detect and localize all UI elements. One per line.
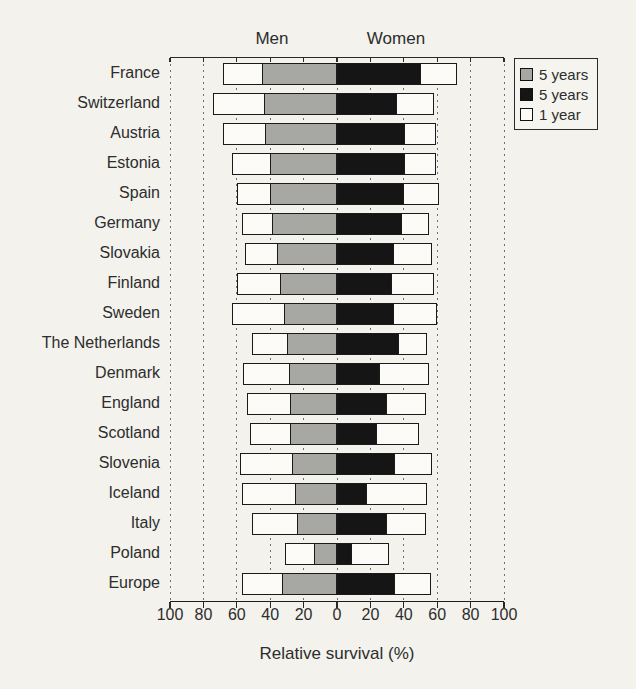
bar-men-5yr [297,513,337,535]
bar-row [170,123,504,145]
axis-tick [169,58,170,62]
country-label: Europe [0,573,160,593]
bar-women-5yr [337,303,394,325]
bar-men-5yr [295,483,337,505]
country-label: Slovenia [0,453,160,473]
bar-row [170,393,504,415]
axis-tick [303,58,304,62]
bar-men-5yr [287,333,337,355]
bar-row [170,333,504,355]
x-tick-label: 40 [395,606,413,624]
bar-women-5yr [337,63,421,85]
x-tick-label: 20 [361,606,379,624]
country-label: Switzerland [0,93,160,113]
country-label: Finland [0,273,160,293]
country-label: Estonia [0,153,160,173]
bar-row [170,573,504,595]
bar-women-5yr [337,333,399,355]
bar-men-5yr [292,453,337,475]
bar-row [170,213,504,235]
country-label: Austria [0,123,160,143]
bar-row [170,543,504,565]
bar-women-5yr [337,93,397,115]
bar-women-5yr [337,453,395,475]
bar-row [170,153,504,175]
legend-swatch-gray [520,68,533,81]
x-tick-label: 100 [491,606,518,624]
bar-row [170,453,504,475]
bar-women-5yr [337,273,392,295]
legend-label: 1 year [539,106,581,123]
bar-men-5yr [290,423,337,445]
legend-swatch-black [520,88,533,101]
plot-area [170,57,504,602]
bar-women-5yr [337,153,405,175]
bar-women-5yr [337,423,377,445]
country-label: Italy [0,513,160,533]
bar-women-5yr [337,573,395,595]
legend: 5 years5 years1 year [514,58,598,130]
legend-label: 5 years [539,66,588,83]
bar-women-5yr [337,183,404,205]
x-tick-label: 100 [157,606,184,624]
bar-row [170,423,504,445]
country-label: Denmark [0,363,160,383]
bar-row [170,303,504,325]
axis-tick [236,58,237,62]
bar-row [170,363,504,385]
x-tick-label: 80 [462,606,480,624]
bar-women-5yr [337,213,402,235]
bar-row [170,513,504,535]
axis-tick [336,58,337,62]
bar-men-5yr [264,93,337,115]
bar-men-5yr [284,303,337,325]
legend-item: 1 year [520,104,593,124]
legend-item: 5 years [520,84,593,104]
bar-men-5yr [282,573,337,595]
men-group-label: Men [255,29,288,49]
legend-label: 5 years [539,86,588,103]
country-label: Spain [0,183,160,203]
axis-tick [270,58,271,62]
bar-women-5yr [337,483,367,505]
bar-men-5yr [265,123,337,145]
bar-men-5yr [290,393,337,415]
bar-men-5yr [262,63,337,85]
country-label: Iceland [0,483,160,503]
bar-men-5yr [270,183,337,205]
country-label: Slovakia [0,243,160,263]
bar-row [170,93,504,115]
bar-row [170,273,504,295]
x-tick-label: 0 [333,606,342,624]
bar-women-5yr [337,513,387,535]
country-label: The Netherlands [0,333,160,353]
x-tick-label: 20 [295,606,313,624]
axis-tick [503,58,504,62]
x-axis-title: Relative survival (%) [260,644,415,664]
bar-women-5yr [337,543,352,565]
bar-row [170,483,504,505]
bar-men-5yr [272,213,337,235]
axis-tick [437,58,438,62]
bar-men-5yr [289,363,337,385]
country-label: Germany [0,213,160,233]
country-label: England [0,393,160,413]
survival-chart-figure: Men Women FranceSwitzerlandAustriaEstoni… [0,0,636,689]
bar-women-5yr [337,123,405,145]
bar-men-5yr [314,543,337,565]
bar-men-5yr [270,153,337,175]
bar-row [170,183,504,205]
x-tick-label: 60 [428,606,446,624]
axis-tick [470,58,471,62]
axis-tick [403,58,404,62]
bar-row [170,243,504,265]
country-label: France [0,63,160,83]
axis-tick [370,58,371,62]
bar-men-5yr [277,243,337,265]
women-group-label: Women [367,29,425,49]
bar-women-5yr [337,363,380,385]
bar-men-5yr [280,273,337,295]
bar-women-5yr [337,393,387,415]
x-tick-label: 60 [228,606,246,624]
bar-women-5yr [337,243,394,265]
